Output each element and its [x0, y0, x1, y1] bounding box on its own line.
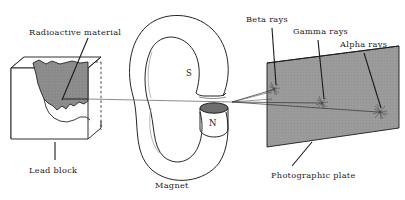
south-pole-label: S — [186, 68, 192, 78]
lead-block-label: Lead block — [29, 165, 78, 175]
magnet-shading-upper — [148, 52, 152, 98]
lead-block-front-lip — [88, 121, 101, 139]
lead-block-group — [11, 57, 101, 139]
radioactive-material-label: Radioactive material — [29, 27, 121, 37]
radioactivity-diagram: Radioactive material Lead block S N Magn… — [0, 0, 405, 200]
magnet-label: Magnet — [155, 180, 189, 190]
photographic-plate-group — [267, 46, 399, 147]
alpha-rays-label: Alpha rays — [339, 39, 387, 49]
magnet-gap-shadow — [199, 97, 226, 99]
beta-rays-label: Beta rays — [246, 14, 288, 24]
photographic-plate-leader — [292, 142, 312, 166]
north-pole-label: N — [209, 118, 217, 128]
diagram-canvas: Radioactive material Lead block S N Magn… — [0, 0, 405, 200]
incident-beam — [88, 99, 232, 102]
magnet-north-pole-face — [200, 103, 228, 113]
photographic-plate-surface — [267, 46, 399, 147]
photographic-plate-label: Photographic plate — [271, 170, 356, 180]
magnet-group — [130, 15, 229, 180]
magnet-south-pole-shoe — [196, 93, 226, 96]
beta-ray-path — [232, 90, 272, 102]
magnet-outer-yoke — [130, 15, 229, 180]
gamma-rays-label: Gamma rays — [293, 26, 348, 36]
